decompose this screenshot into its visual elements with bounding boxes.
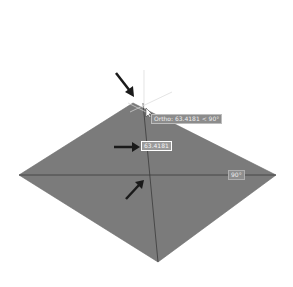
ortho-tooltip: Ortho: 63.4181 < 90° — [151, 114, 222, 124]
angle-tooltip: 90° — [228, 170, 245, 180]
tracking-line-diagonal — [130, 92, 172, 112]
diamond-shape[interactable] — [19, 103, 276, 262]
arrow-icon — [116, 73, 134, 97]
length-input-field[interactable]: 63.4181 — [141, 141, 172, 151]
